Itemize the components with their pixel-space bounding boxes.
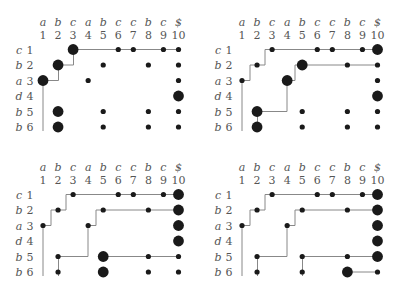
- path-edge: [88, 210, 179, 226]
- small-node: [131, 47, 136, 52]
- small-node: [146, 124, 151, 129]
- small-node: [375, 109, 380, 114]
- column-number: 8: [344, 174, 351, 187]
- column-number: 5: [100, 29, 107, 42]
- column-number: 10: [371, 29, 385, 42]
- grid-panel-bottom-left: abcabccbc$12345678910cbadbb123456: [15, 161, 185, 279]
- column-letter: $: [175, 161, 182, 174]
- path-edge: [303, 257, 378, 277]
- column-letter: c: [329, 16, 335, 29]
- path-edge: [287, 210, 378, 226]
- small-node: [300, 207, 305, 212]
- column-letter: c: [70, 161, 76, 174]
- small-node: [176, 254, 181, 259]
- column-letter: b: [145, 161, 152, 174]
- large-node: [53, 60, 64, 71]
- column-letter: b: [254, 16, 261, 29]
- small-node: [40, 223, 45, 228]
- column-number: 3: [70, 174, 77, 187]
- row-number: 1: [27, 44, 34, 57]
- small-node: [116, 47, 121, 52]
- small-node: [131, 192, 136, 197]
- column-letter: a: [284, 161, 291, 174]
- small-node: [176, 62, 181, 67]
- small-node: [101, 109, 106, 114]
- small-node: [161, 47, 166, 52]
- column-number: 6: [115, 174, 122, 187]
- small-node: [71, 192, 76, 197]
- column-letter: c: [314, 161, 320, 174]
- small-node: [315, 192, 320, 197]
- row-number: 1: [226, 189, 233, 202]
- small-node: [300, 109, 305, 114]
- row-letter: b: [214, 121, 221, 134]
- small-node: [55, 269, 60, 274]
- column-number: 7: [130, 29, 137, 42]
- column-number: 10: [172, 174, 186, 187]
- small-node: [375, 269, 380, 274]
- row-number: 1: [27, 189, 34, 202]
- row-number: 5: [27, 251, 34, 264]
- column-letter: b: [100, 161, 107, 174]
- small-node: [330, 47, 335, 52]
- column-number: 6: [115, 29, 122, 42]
- column-letter: a: [85, 16, 92, 29]
- small-node: [146, 62, 151, 67]
- row-number: 5: [226, 251, 233, 264]
- column-letter: c: [160, 161, 166, 174]
- large-node: [68, 44, 79, 55]
- small-node: [360, 47, 365, 52]
- row-number: 2: [226, 204, 233, 217]
- row-number: 6: [27, 266, 34, 279]
- column-letter: c: [314, 16, 320, 29]
- row-number: 3: [27, 220, 34, 233]
- row-number: 6: [226, 266, 233, 279]
- small-node: [300, 269, 305, 274]
- column-number: 8: [145, 29, 152, 42]
- small-node: [239, 223, 244, 228]
- small-node: [176, 269, 181, 274]
- column-letter: c: [329, 161, 335, 174]
- row-letter: a: [16, 75, 23, 88]
- small-node: [375, 62, 380, 67]
- large-node: [372, 91, 383, 102]
- column-letter: c: [359, 16, 365, 29]
- row-letter: d: [214, 235, 221, 248]
- large-node: [372, 189, 383, 200]
- small-node: [116, 192, 121, 197]
- row-number: 2: [226, 59, 233, 72]
- small-node: [176, 124, 181, 129]
- row-letter: a: [16, 220, 23, 233]
- row-letter: c: [16, 44, 22, 57]
- small-node: [161, 192, 166, 197]
- small-node: [176, 47, 181, 52]
- large-node: [173, 236, 184, 247]
- row-letter: c: [215, 189, 221, 202]
- large-node: [372, 205, 383, 216]
- small-node: [239, 78, 244, 83]
- column-letter: a: [85, 161, 92, 174]
- small-node: [300, 254, 305, 259]
- column-letter: b: [344, 16, 351, 29]
- small-node: [360, 192, 365, 197]
- column-letter: a: [239, 16, 246, 29]
- large-node: [372, 236, 383, 247]
- column-letter: b: [55, 161, 62, 174]
- column-number: 1: [40, 29, 47, 42]
- column-number: 2: [55, 29, 62, 42]
- grid-panel-top-right: abcabccbc$12345678910cbadbb123456: [214, 16, 384, 134]
- path-edge: [258, 81, 288, 132]
- column-number: 5: [299, 174, 306, 187]
- column-letter: c: [359, 161, 365, 174]
- small-node: [375, 78, 380, 83]
- column-letter: c: [115, 16, 121, 29]
- row-letter: b: [214, 266, 221, 279]
- column-letter: a: [40, 16, 47, 29]
- column-letter: $: [374, 16, 381, 29]
- column-letter: c: [269, 161, 275, 174]
- column-number: 3: [70, 29, 77, 42]
- column-number: 5: [100, 174, 107, 187]
- column-number: 7: [329, 29, 336, 42]
- small-node: [55, 207, 60, 212]
- column-letter: b: [254, 161, 261, 174]
